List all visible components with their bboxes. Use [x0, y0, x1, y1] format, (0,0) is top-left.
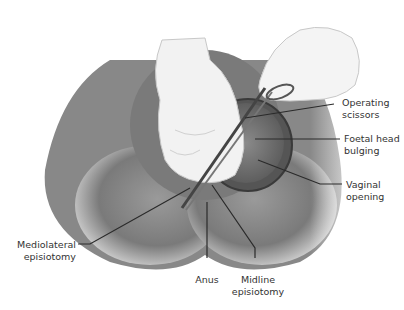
- label-operating-scissors: Operating scissors: [342, 97, 390, 120]
- label-mediolateral-episiotomy: Mediolateral episiotomy: [4, 239, 76, 262]
- gloved-hand-right: [259, 27, 360, 101]
- label-foetal-head-bulging: Foetal head bulging: [344, 133, 400, 156]
- label-anus: Anus: [190, 274, 224, 286]
- label-vaginal-opening: Vaginal opening: [346, 179, 384, 202]
- label-midline-episiotomy: Midline episiotomy: [228, 274, 288, 297]
